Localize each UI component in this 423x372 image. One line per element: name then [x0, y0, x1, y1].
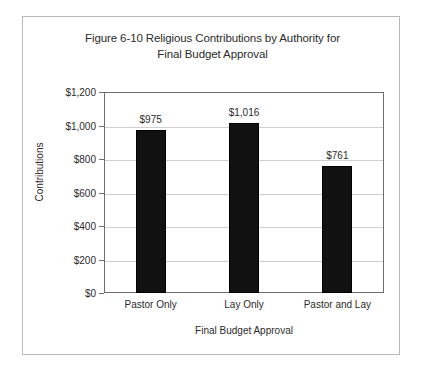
x-axis-tick-label: Pastor and Lay — [304, 299, 371, 310]
bar — [136, 130, 166, 293]
bar-value-label: $1,016 — [229, 107, 260, 118]
x-axis-tick-label: Lay Only — [224, 299, 263, 310]
y-axis-tick-mark — [99, 159, 104, 160]
figure-container: Figure 6-10 Religious Contributions by A… — [0, 0, 423, 372]
y-axis-tick-label: $800 — [38, 154, 96, 165]
y-axis-tick-mark — [99, 126, 104, 127]
y-axis-tick-mark — [99, 293, 104, 294]
bar — [229, 123, 259, 293]
chart-title-line-2: Final Budget Approval — [40, 46, 385, 62]
y-axis-tick-mark — [99, 260, 104, 261]
x-axis-tick-label: Pastor Only — [125, 299, 177, 310]
y-axis-title: Contributions — [34, 122, 45, 222]
y-axis-tick-mark — [99, 193, 104, 194]
y-axis-tick-mark — [99, 226, 104, 227]
bar-value-label: $761 — [326, 150, 348, 161]
chart-title: Figure 6-10 Religious Contributions by A… — [40, 30, 385, 62]
y-axis-tick-mark — [99, 92, 104, 93]
y-axis-tick-label: $200 — [38, 254, 96, 265]
y-axis-tick-label: $0 — [38, 288, 96, 299]
y-axis-tick-label: $600 — [38, 187, 96, 198]
x-axis-title: Final Budget Approval — [104, 325, 384, 336]
y-axis-tick-label: $1,200 — [38, 87, 96, 98]
bar — [322, 166, 352, 293]
y-axis-tick-label: $1,000 — [38, 120, 96, 131]
y-axis-tick-label: $400 — [38, 221, 96, 232]
chart-title-line-1: Figure 6-10 Religious Contributions by A… — [40, 30, 385, 46]
bar-value-label: $975 — [140, 114, 162, 125]
